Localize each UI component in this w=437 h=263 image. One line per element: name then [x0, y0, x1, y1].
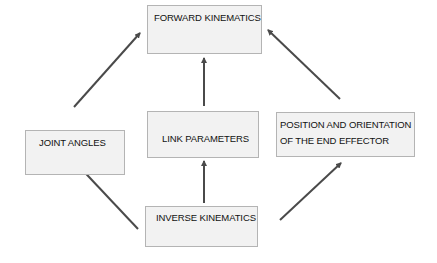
node-inverse-kinematics: INVERSE KINEMATICS — [145, 206, 258, 247]
arrow-position-to-forward — [268, 30, 340, 99]
arrow-joint-to-forward — [74, 33, 140, 107]
node-label: JOINT ANGLES — [39, 135, 106, 151]
node-label-line1: POSITION AND ORIENTATION — [280, 117, 411, 133]
node-forward-kinematics: FORWARD KINEMATICS — [147, 5, 262, 54]
node-link-parameters: LINK PARAMETERS — [147, 111, 259, 158]
node-label: FORWARD KINEMATICS — [154, 10, 261, 26]
node-label-line2: OF THE END EFFECTOR — [280, 133, 389, 149]
node-label: LINK PARAMETERS — [162, 131, 249, 147]
node-joint-angles: JOINT ANGLES — [25, 130, 125, 175]
node-label: INVERSE KINEMATICS — [156, 210, 256, 226]
diagram-canvas: FORWARD KINEMATICS JOINT ANGLES LINK PAR… — [0, 0, 437, 263]
node-position-orientation: POSITION AND ORIENTATION OF THE END EFFE… — [276, 112, 415, 157]
arrow-inverse-to-position — [280, 163, 341, 220]
